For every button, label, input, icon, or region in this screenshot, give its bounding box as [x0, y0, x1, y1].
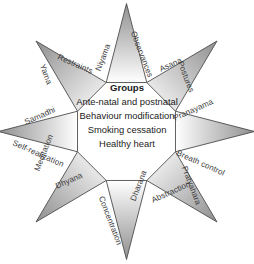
star-point-pranayama	[175, 111, 254, 152]
star-point-dhyana	[36, 152, 106, 222]
star-point-niyama	[106, 4, 147, 83]
star-shape	[0, 0, 254, 264]
star-point-pratyahara	[147, 152, 217, 222]
star-point-yama	[36, 41, 106, 111]
star-point-postures	[147, 41, 217, 111]
star-point-samadhi	[0, 111, 78, 152]
star-point-dharana	[106, 180, 147, 259]
star-diagram: NiyamaObservancesPosturesAsanaPranayamaB…	[0, 0, 254, 264]
